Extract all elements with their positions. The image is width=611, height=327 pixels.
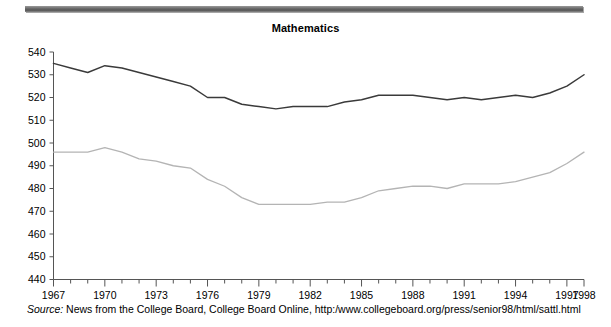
x-tick-label: 1991 <box>453 289 477 301</box>
y-tick-label: 520 <box>28 91 46 103</box>
x-tick-label: 1973 <box>144 289 168 301</box>
y-tick-label: 480 <box>28 182 46 194</box>
y-tick-label: 530 <box>28 68 46 80</box>
x-tick-label: 1979 <box>247 289 271 301</box>
y-tick-label: 540 <box>28 46 46 58</box>
x-tick-label: 1994 <box>504 289 528 301</box>
x-tick-label: 1985 <box>350 289 374 301</box>
x-tick-label: 1988 <box>401 289 425 301</box>
y-tick-label: 450 <box>28 250 46 262</box>
plot-area: 4404504604704804905005105205305401967197… <box>0 0 611 327</box>
y-tick-label: 490 <box>28 159 46 171</box>
chart-page: Mathematics 4404504604704804905005105205… <box>0 0 611 327</box>
x-tick-label: 1976 <box>196 289 220 301</box>
series-line-lower-series <box>54 148 585 205</box>
source-note: Source: News from the College Board, Col… <box>27 303 602 315</box>
x-tick-label: 1982 <box>299 289 323 301</box>
line-chart-svg: 4404504604704804905005105205305401967197… <box>0 0 611 327</box>
source-label: Source: <box>27 303 63 315</box>
y-tick-label: 510 <box>28 114 46 126</box>
y-tick-label: 460 <box>28 228 46 240</box>
x-tick-label: 1967 <box>42 289 66 301</box>
y-tick-label: 440 <box>28 273 46 285</box>
x-tick-label: 1998 <box>572 289 596 301</box>
source-text: News from the College Board, College Boa… <box>66 303 581 315</box>
x-tick-label: 1970 <box>93 289 117 301</box>
y-tick-label: 470 <box>28 205 46 217</box>
y-tick-label: 500 <box>28 137 46 149</box>
series-line-upper-series <box>54 63 585 108</box>
